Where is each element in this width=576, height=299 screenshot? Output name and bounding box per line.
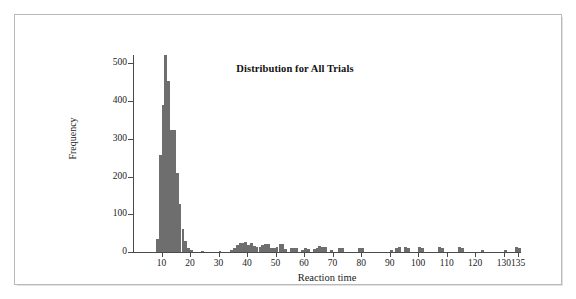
y-axis-tick-label-wrap: 500: [93, 63, 133, 64]
histogram-bar: [330, 250, 333, 252]
x-axis-tick-label: 60: [289, 258, 319, 269]
y-axis-title: Frequency: [67, 79, 78, 199]
histogram-bar: [461, 248, 464, 253]
x-axis-tick: [447, 253, 448, 257]
y-axis-tick-label-wrap: 400: [93, 101, 133, 102]
y-axis-line: [133, 55, 134, 253]
x-axis-tick-label: 10: [147, 258, 177, 269]
x-axis-tick-label: 40: [232, 258, 262, 269]
histogram-bar: [518, 248, 521, 253]
x-axis-tick-label: 50: [261, 258, 291, 269]
x-axis-tick: [475, 253, 476, 257]
x-axis-tick: [247, 253, 248, 257]
histogram-bar: [296, 248, 299, 252]
histogram-bar: [219, 251, 222, 253]
y-axis-tick-label: 500: [99, 58, 127, 67]
histogram-bar: [390, 250, 393, 252]
y-axis-tick-label: 200: [99, 172, 127, 181]
y-axis-tick-label-wrap: 200: [93, 177, 133, 178]
x-axis-tick: [518, 253, 519, 257]
x-axis-tick: [333, 253, 334, 257]
histogram-bar: [504, 250, 507, 252]
histogram-bar: [201, 251, 204, 253]
y-axis-tick-label-wrap: 300: [93, 139, 133, 140]
x-axis-tick-label: 135: [503, 258, 533, 269]
x-axis-tick: [390, 253, 391, 257]
x-axis-tick-label: 20: [175, 258, 205, 269]
histogram-bar: [421, 248, 424, 253]
y-axis-tick-label-wrap: 100: [93, 214, 133, 215]
y-axis-tick-label: 0: [99, 247, 127, 256]
x-axis-tick-label: 110: [432, 258, 462, 269]
histogram-chart: 0100200300400500102030405060708090100110…: [15, 15, 576, 299]
histogram-bar: [307, 249, 310, 252]
x-axis-tick: [304, 253, 305, 257]
histogram-bar: [441, 248, 444, 252]
x-axis-line: [133, 252, 521, 253]
histogram-bar: [341, 248, 344, 252]
x-axis-tick: [162, 253, 163, 257]
figure-frame: 0100200300400500102030405060708090100110…: [14, 14, 562, 285]
histogram-bar: [407, 248, 410, 253]
x-axis-tick-label: 70: [318, 258, 348, 269]
x-axis-tick-label: 80: [346, 258, 376, 269]
y-axis-tick-label: 300: [99, 134, 127, 143]
x-axis-title: Reaction time: [133, 272, 521, 283]
y-axis-tick-label-wrap: 0: [93, 252, 133, 253]
x-axis-tick: [504, 253, 505, 257]
histogram-bar: [324, 247, 327, 252]
x-axis-tick: [276, 253, 277, 257]
x-axis-tick: [361, 253, 362, 257]
y-axis-tick-label: 100: [99, 209, 127, 218]
x-axis-tick-label: 30: [204, 258, 234, 269]
chart-title: Distribution for All Trials: [185, 63, 405, 74]
x-axis-tick: [418, 253, 419, 257]
x-axis-tick: [219, 253, 220, 257]
histogram-bar: [284, 249, 287, 252]
x-axis-tick-label: 120: [460, 258, 490, 269]
histogram-bar: [190, 250, 193, 252]
x-axis-tick-label: 100: [403, 258, 433, 269]
histogram-bar: [361, 248, 364, 252]
y-axis-tick-label: 400: [99, 96, 127, 105]
x-axis-tick: [190, 253, 191, 257]
x-axis-tick-label: 90: [375, 258, 405, 269]
histogram-bar: [481, 250, 484, 252]
histogram-bar: [398, 247, 401, 252]
